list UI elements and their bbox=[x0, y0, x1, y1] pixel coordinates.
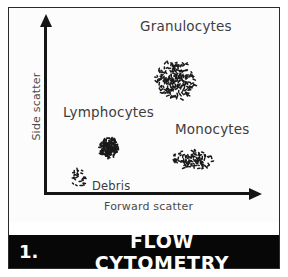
y-axis-line bbox=[44, 26, 47, 194]
cluster-label-debris: Debris bbox=[92, 179, 130, 193]
figure-frame: Side scatter Forward scatter Granulocyte… bbox=[8, 7, 280, 269]
y-axis-label: Side scatter bbox=[30, 62, 43, 152]
x-axis-label: Forward scatter bbox=[104, 200, 193, 213]
cluster-label-granulocytes: Granulocytes bbox=[140, 18, 232, 34]
cluster-label-monocytes: Monocytes bbox=[175, 121, 250, 137]
cluster-monocytes bbox=[157, 141, 229, 179]
figure-title-bar: 1. FLOW CYTOMETRY bbox=[9, 235, 279, 268]
y-axis-arrow-icon bbox=[40, 14, 52, 27]
figure-number: 1. bbox=[9, 241, 61, 262]
cluster-lymphocytes bbox=[91, 130, 127, 166]
x-axis-arrow-icon bbox=[249, 188, 262, 200]
scatter-plot-area: Side scatter Forward scatter Granulocyte… bbox=[9, 8, 279, 222]
cluster-debris bbox=[61, 163, 95, 193]
flow-cytometry-figure: Side scatter Forward scatter Granulocyte… bbox=[0, 0, 288, 277]
cluster-label-lymphocytes: Lymphocytes bbox=[63, 104, 154, 120]
figure-title: FLOW CYTOMETRY bbox=[61, 230, 279, 274]
